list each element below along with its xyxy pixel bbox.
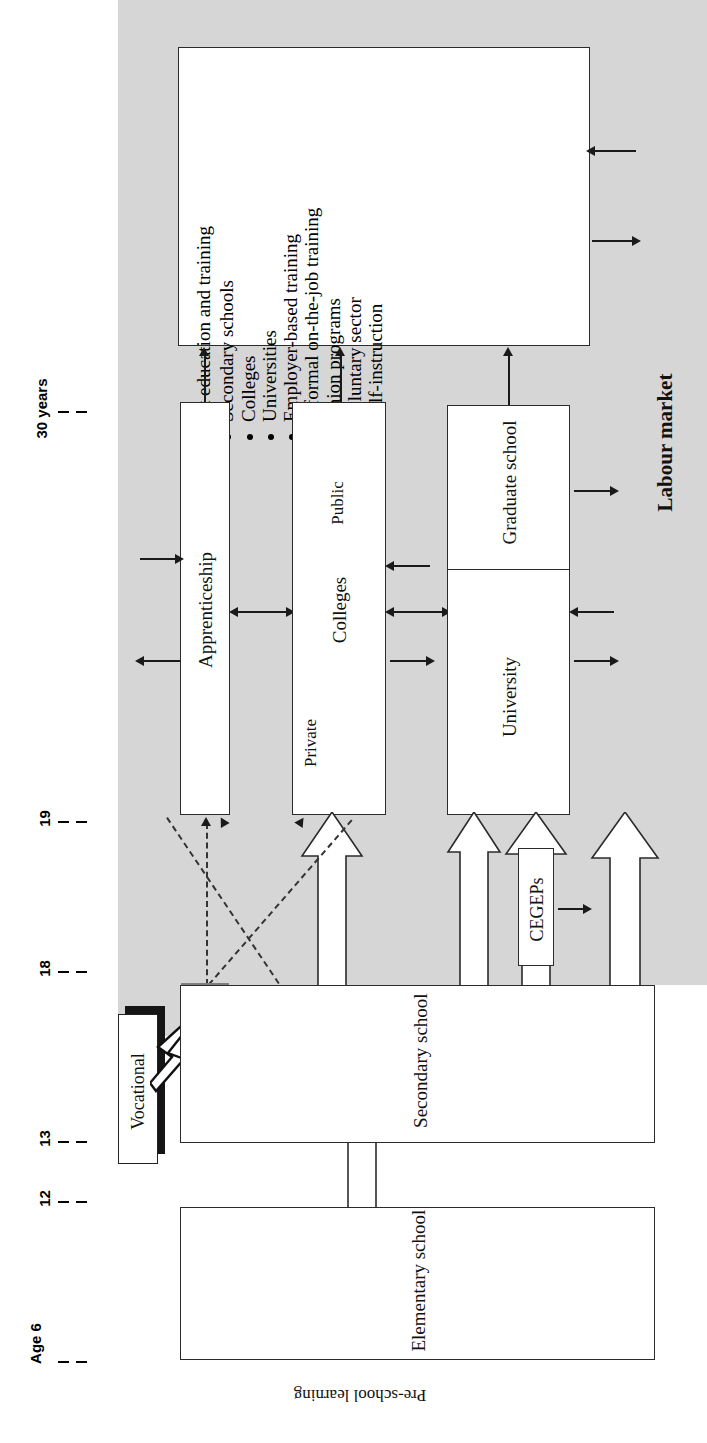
arrow-adult-to-labour-line: [592, 240, 636, 242]
list-item: Secondary schools: [216, 176, 237, 422]
arrow-university-to-labour-line: [574, 660, 614, 662]
axis-tick-mark2-18: [76, 971, 87, 973]
arrow-colleges-university-line: [390, 611, 446, 613]
axis-tick-mark-18: [58, 971, 69, 973]
fat-arrow-secondary-to-labour: [588, 812, 662, 988]
university-label: University: [499, 607, 521, 787]
secondary-school-box[interactable]: Secondary school: [180, 985, 655, 1143]
axis-tick-label-18: 18: [36, 949, 53, 989]
axis-tick-mark2-19: [76, 821, 87, 823]
arrow-labour-to-adult-line: [592, 150, 636, 152]
apprenticeship-box[interactable]: Apprenticeship: [180, 402, 230, 815]
axis-tick-mark-13: [58, 1141, 69, 1143]
preschool-learning-label: Pre-school learning: [230, 1385, 490, 1405]
dashed-arrow-head-1: [201, 817, 211, 826]
list-item: Voluntary sector: [344, 176, 365, 422]
arrow-university-to-labour-head: [610, 656, 619, 666]
arrow-colleges-to-labour-in-line: [390, 565, 430, 567]
list-item: Self-instruction: [365, 176, 386, 422]
colleges-public-label: Public: [328, 423, 348, 583]
arrow-cegeps-to-labour-head: [583, 904, 592, 914]
cegeps-label: CEGEPs: [527, 848, 548, 972]
vocational-label: Vocational: [128, 1017, 149, 1167]
adult-education-box[interactable]: Adult education and training Secondary s…: [178, 47, 590, 346]
university-box[interactable]: Graduate school University: [447, 405, 570, 815]
axis-tick-mark-age6: [58, 1361, 69, 1363]
colleges-box[interactable]: Colleges Public Private: [292, 402, 386, 815]
arrow-apprenticeship-colleges-line: [234, 611, 290, 613]
graduate-school-label: Graduate school: [500, 407, 521, 557]
axis-tick-mark-19: [58, 821, 69, 823]
list-item: Informal on-the-job training: [301, 176, 322, 422]
arrow-colleges-to-labour-out-line: [390, 660, 430, 662]
axis-tick-label-19: 19: [36, 799, 53, 839]
arrow-apprenticeship-to-adult-head: [199, 347, 209, 356]
axis-tick-mark2-30years: [76, 411, 87, 413]
arrow-colleges-to-adult-head: [335, 347, 345, 356]
colleges-private-label: Private: [301, 663, 321, 823]
fat-arrow-secondary-to-university: [446, 812, 502, 988]
arrow-labour-to-adult-head: [586, 146, 595, 156]
axis-tick-label-12: 12: [36, 1179, 53, 1219]
labour-market-label: Labour market: [653, 343, 678, 543]
list-item: Universities: [259, 176, 280, 422]
arrow-labour-to-university-line: [574, 611, 614, 613]
arrow-apprenticeship-to-labour-head: [135, 656, 144, 666]
list-item: Employer-based training: [280, 176, 301, 422]
arrow-labour-to-university-head: [569, 607, 578, 617]
axis-tick-mark2-age6: [76, 1361, 87, 1363]
axis-tick-mark2-13: [76, 1141, 87, 1143]
arrow-colleges-university-head-left: [385, 607, 394, 617]
fat-arrow-secondary-to-colleges: [300, 812, 364, 988]
arrow-graduate-to-labour-line: [574, 490, 614, 492]
axis-tick-mark-30years: [58, 411, 69, 413]
axis-tick-label-13: 13: [36, 1119, 53, 1159]
cegeps-box[interactable]: CEGEPs: [518, 848, 554, 966]
arrow-apprenticeship-to-labour-line: [140, 660, 180, 662]
elementary-school-label: Elementary school: [408, 1201, 429, 1361]
arrow-colleges-to-labour-out-head: [426, 656, 435, 666]
list-item: Colleges: [238, 176, 259, 422]
arrow-labour-to-apprenticeship-head: [175, 554, 184, 564]
arrow-adult-to-labour-head: [632, 236, 641, 246]
arrow-colleges-to-adult-line: [340, 356, 342, 402]
university-graduate-divider: [448, 569, 569, 570]
arrow-university-to-adult-line: [508, 356, 510, 406]
diagram-canvas: 30 years 19 18 13 12 Age 6 Labour market…: [0, 0, 707, 1443]
dashed-arrow-vocational-to-apprenticeship-1: [206, 823, 208, 985]
arrow-apprenticeship-colleges-head-left: [229, 607, 238, 617]
axis-tick-label-age6: Age 6: [27, 1309, 44, 1379]
apprenticeship-label: Apprenticeship: [195, 510, 217, 710]
arrow-university-to-adult-head: [503, 347, 513, 356]
arrow-apprenticeship-to-adult-line: [204, 356, 206, 402]
elementary-school-box[interactable]: Elementary school: [180, 1207, 655, 1360]
arrow-colleges-to-labour-in-head: [385, 561, 394, 571]
axis-tick-label-30years: 30 years: [33, 364, 50, 454]
axis-tick-mark2-12: [76, 1201, 87, 1203]
arrow-graduate-to-labour-head: [610, 486, 619, 496]
arrow-labour-to-apprenticeship-line: [140, 558, 180, 560]
axis-tick-mark-12: [58, 1201, 69, 1203]
secondary-school-label: Secondary school: [410, 981, 431, 1141]
